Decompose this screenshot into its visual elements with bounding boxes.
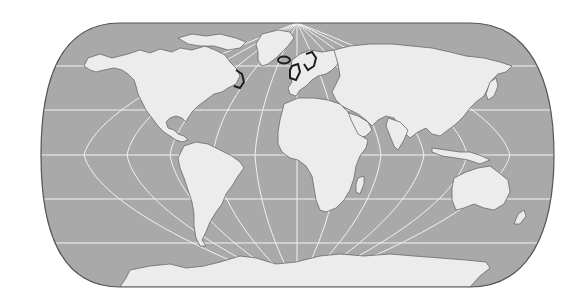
world-map: [0, 0, 574, 303]
